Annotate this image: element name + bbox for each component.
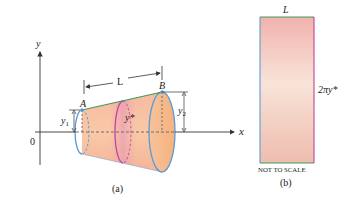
not-to-scale-note: NOT TO SCALE <box>258 166 306 173</box>
length-arrow-left <box>86 83 113 87</box>
origin-label: 0 <box>30 136 35 147</box>
caption-b: (b) <box>280 177 292 189</box>
point-b-label: B <box>159 80 165 91</box>
rect-top-label: L <box>282 4 289 15</box>
length-arrow-right <box>128 73 160 78</box>
rect-side-label: 2πy* <box>318 84 337 95</box>
unrolled-rectangle <box>260 17 314 163</box>
point-a-label: A <box>79 98 87 109</box>
length-label: L <box>117 76 123 87</box>
x-axis-label: x <box>238 125 244 137</box>
surface-of-revolution-diagram: y 0 x A B L <box>0 0 357 202</box>
figure-a: y 0 x A B L <box>30 38 244 195</box>
y-star-label: y* <box>124 112 134 123</box>
y1-label: y1 <box>60 115 69 128</box>
figure-b: L 2πy* NOT TO SCALE (b) <box>258 4 337 189</box>
y2-label: y2 <box>177 105 186 118</box>
y-axis-label: y <box>35 38 41 49</box>
caption-a: (a) <box>112 183 123 195</box>
